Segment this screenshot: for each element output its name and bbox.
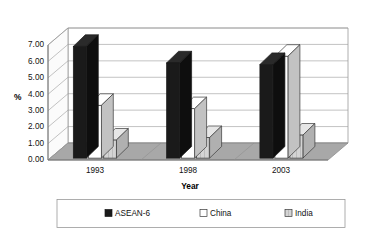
plot-left-wall xyxy=(48,28,68,160)
legend-swatch-asean-6 xyxy=(105,210,112,217)
y-tick-label: 3.00 xyxy=(28,106,44,115)
y-tick-label: 4.00 xyxy=(28,90,44,99)
y-tick-label: 2.00 xyxy=(28,122,44,131)
x-tick-label-1998: 1998 xyxy=(179,166,198,175)
legend-label-india: India xyxy=(295,209,313,218)
bar-asean-6-1993 xyxy=(73,35,98,158)
bar-asean-6-1998 xyxy=(167,51,192,158)
chart-legend: ASEAN-6 China India xyxy=(57,200,345,228)
chart-container: 0.00 1.00 2.00 3.00 4.00 5.00 6.00 7.00 … xyxy=(0,0,365,241)
legend-label-china: China xyxy=(210,209,232,218)
legend-swatch-india xyxy=(285,210,292,217)
x-tick-label-2003: 2003 xyxy=(272,166,291,175)
bar-asean-6-2003 xyxy=(260,53,285,158)
y-tick-label: 1.00 xyxy=(28,139,44,148)
x-axis-tick-labels: 1993 1998 2003 xyxy=(86,166,291,175)
y-axis-title: % xyxy=(14,92,22,102)
legend-label-asean-6: ASEAN-6 xyxy=(115,209,150,218)
x-tick-label-1993: 1993 xyxy=(86,166,105,175)
y-tick-label: 0.00 xyxy=(28,155,44,164)
y-tick-label: 7.00 xyxy=(28,40,44,49)
x-axis-title: Year xyxy=(181,181,199,191)
bar-chart-3d: 0.00 1.00 2.00 3.00 4.00 5.00 6.00 7.00 … xyxy=(0,0,365,241)
legend-swatch-china xyxy=(200,210,207,217)
y-tick-label: 6.00 xyxy=(28,57,44,66)
y-tick-label: 5.00 xyxy=(28,73,44,82)
y-axis-tick-labels: 0.00 1.00 2.00 3.00 4.00 5.00 6.00 7.00 xyxy=(28,40,44,164)
